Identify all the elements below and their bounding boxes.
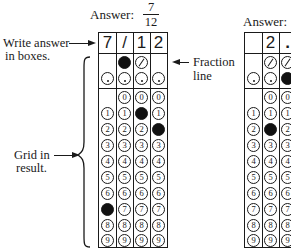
digit-bubble[interactable]: 0	[152, 91, 165, 104]
digit-bubble[interactable]: 1	[101, 107, 114, 120]
digit-bubble[interactable]: 9	[135, 234, 148, 247]
decimal-bubble[interactable]	[118, 72, 131, 85]
digit-bubble-filled[interactable]	[135, 107, 148, 120]
digit-bubble[interactable]: 4	[152, 155, 165, 168]
digit-bubble[interactable]: 1	[264, 107, 277, 120]
digit-bubble-filled[interactable]	[264, 123, 277, 136]
digit-bubble[interactable]: 3	[101, 139, 114, 152]
digit-bubble[interactable]: 5	[264, 171, 277, 184]
answer-grid-1: 7 / 1 2 1 2 3 4 5 6 8 9 0 1 2 3 4 5 6 7 …	[98, 32, 168, 248]
digit-bubble[interactable]: 1	[118, 107, 131, 120]
digit-bubble[interactable]: 9	[152, 234, 165, 247]
digit-bubble[interactable]: 2	[247, 123, 260, 136]
digit-bubble[interactable]: 8	[281, 219, 291, 232]
digit-bubble[interactable]: 8	[152, 219, 165, 232]
digit-bubble[interactable]: 8	[135, 219, 148, 232]
column-divider	[279, 33, 280, 247]
answer-box-3[interactable]: .	[279, 33, 291, 53]
digit-bubble[interactable]: 0	[281, 91, 291, 104]
digit-bubble[interactable]: 8	[247, 219, 260, 232]
digit-bubble[interactable]: 2	[118, 123, 131, 136]
digit-bubble[interactable]: 5	[281, 171, 291, 184]
answer-label-1: Answer:	[90, 8, 134, 21]
digit-bubble[interactable]: 2	[135, 123, 148, 136]
digit-bubble[interactable]: 0	[135, 91, 148, 104]
digit-bubble[interactable]: 9	[264, 234, 277, 247]
digit-bubble[interactable]: 7	[135, 203, 148, 216]
write-answer-label-2: in boxes.	[5, 50, 50, 63]
row-divider	[245, 53, 291, 54]
digit-bubble[interactable]: 7	[118, 203, 131, 216]
digit-bubble[interactable]: 7	[152, 203, 165, 216]
digit-bubble[interactable]: 6	[152, 187, 165, 200]
answer-box-3[interactable]: 1	[133, 33, 150, 53]
digit-bubble[interactable]: 5	[101, 171, 114, 184]
digit-bubble[interactable]: 0	[264, 91, 277, 104]
answer-box-2[interactable]: /	[116, 33, 133, 53]
digit-bubble[interactable]: 9	[281, 234, 291, 247]
digit-bubble[interactable]: 5	[118, 171, 131, 184]
digit-bubble[interactable]: 2	[281, 123, 291, 136]
digit-bubble[interactable]: 4	[264, 155, 277, 168]
digit-bubble[interactable]: 6	[135, 187, 148, 200]
answer-label-2: Answer:	[243, 15, 287, 28]
decimal-bubble[interactable]	[135, 72, 148, 85]
digit-bubble[interactable]: 8	[101, 219, 114, 232]
fraction-bubble[interactable]	[135, 56, 148, 69]
digit-bubble[interactable]: 4	[281, 155, 291, 168]
digit-bubble[interactable]: 1	[247, 107, 260, 120]
digit-bubble[interactable]: 8	[118, 219, 131, 232]
decimal-bubble[interactable]	[264, 72, 277, 85]
digit-bubble[interactable]: 6	[118, 187, 131, 200]
digit-bubble[interactable]: 7	[264, 203, 277, 216]
write-answer-arrow	[69, 43, 90, 44]
digit-bubble[interactable]: 3	[264, 139, 277, 152]
digit-bubble[interactable]: 6	[264, 187, 277, 200]
row-divider	[245, 88, 291, 89]
decimal-bubble-filled[interactable]	[281, 72, 291, 85]
digit-bubble-filled[interactable]	[152, 123, 165, 136]
digit-bubble[interactable]: 3	[135, 139, 148, 152]
answer-fraction: 7 12	[143, 1, 159, 28]
digit-bubble[interactable]: 3	[152, 139, 165, 152]
decimal-bubble[interactable]	[247, 72, 260, 85]
slash-icon	[139, 58, 145, 66]
digit-bubble[interactable]: 9	[101, 234, 114, 247]
decimal-bubble[interactable]	[152, 72, 165, 85]
digit-bubble[interactable]: 4	[118, 155, 131, 168]
digit-bubble[interactable]: 4	[101, 155, 114, 168]
decimal-bubble[interactable]	[101, 72, 114, 85]
digit-bubble[interactable]: 5	[247, 171, 260, 184]
digit-bubble[interactable]: 6	[281, 187, 291, 200]
fraction-line-label-2: line	[193, 70, 212, 83]
arrow-right-icon	[88, 40, 96, 46]
digit-bubble[interactable]: 6	[101, 187, 114, 200]
digit-bubble[interactable]: 4	[135, 155, 148, 168]
digit-bubble[interactable]: 3	[281, 139, 291, 152]
dot-icon	[141, 80, 143, 82]
digit-bubble[interactable]: 9	[247, 234, 260, 247]
digit-bubble[interactable]: 3	[118, 139, 131, 152]
digit-bubble[interactable]: 5	[135, 171, 148, 184]
answer-box-4[interactable]: 2	[150, 33, 167, 53]
answer-box-1[interactable]: 7	[99, 33, 116, 53]
digit-bubble[interactable]: 6	[247, 187, 260, 200]
digit-bubble[interactable]: 2	[101, 123, 114, 136]
answer-box-2[interactable]: 2	[262, 33, 279, 53]
row-divider	[99, 88, 167, 89]
digit-bubble[interactable]: 8	[264, 219, 277, 232]
fraction-bubble[interactable]	[281, 56, 291, 69]
digit-bubble-filled[interactable]	[101, 203, 114, 216]
digit-bubble[interactable]: 0	[118, 91, 131, 104]
digit-bubble[interactable]: 1	[281, 107, 291, 120]
fraction-bubble-filled[interactable]	[118, 56, 131, 69]
digit-bubble[interactable]: 4	[247, 155, 260, 168]
digit-bubble[interactable]: 5	[152, 171, 165, 184]
dot-icon	[253, 80, 255, 82]
digit-bubble[interactable]: 9	[118, 234, 131, 247]
digit-bubble[interactable]: 7	[281, 203, 291, 216]
digit-bubble[interactable]: 1	[152, 107, 165, 120]
fraction-bubble[interactable]	[264, 56, 277, 69]
digit-bubble[interactable]: 7	[247, 203, 260, 216]
digit-bubble[interactable]: 3	[247, 139, 260, 152]
